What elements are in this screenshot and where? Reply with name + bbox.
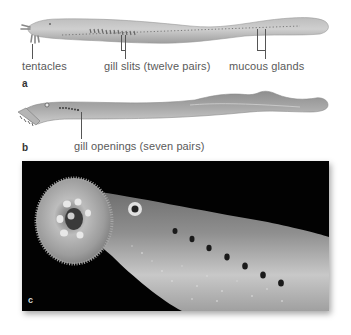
mucous-glands-leader-line-2: [265, 29, 266, 59]
label-gill-openings: gill openings (seven pairs): [74, 140, 205, 152]
panel-b-lamprey-illustration: [0, 88, 351, 138]
gill-slits-leader-line-2: [125, 35, 126, 59]
tentacles-leader-line: [32, 44, 33, 59]
lamprey-photo-rendering: [22, 161, 329, 311]
label-tentacles: tentacles: [22, 60, 67, 72]
lamprey-drawing: [0, 88, 351, 138]
gill-slits-leader-bracket: [121, 50, 126, 51]
panel-c-lamprey-photo: c: [22, 161, 329, 311]
label-mucous-glands: mucous glands: [229, 60, 304, 72]
mucous-glands-leader-bracket: [257, 50, 266, 51]
panel-letter-c: c: [28, 295, 33, 305]
gill-slits-leader-line-1: [121, 35, 122, 51]
hagfish-drawing: [0, 0, 351, 60]
label-gill-slits: gill slits (twelve pairs): [104, 60, 210, 72]
gill-openings-leader-line: [81, 112, 82, 139]
panel-letter-b: b: [22, 142, 28, 153]
panel-a-hagfish-illustration: [0, 0, 351, 60]
mucous-glands-leader-line-1: [257, 29, 258, 51]
